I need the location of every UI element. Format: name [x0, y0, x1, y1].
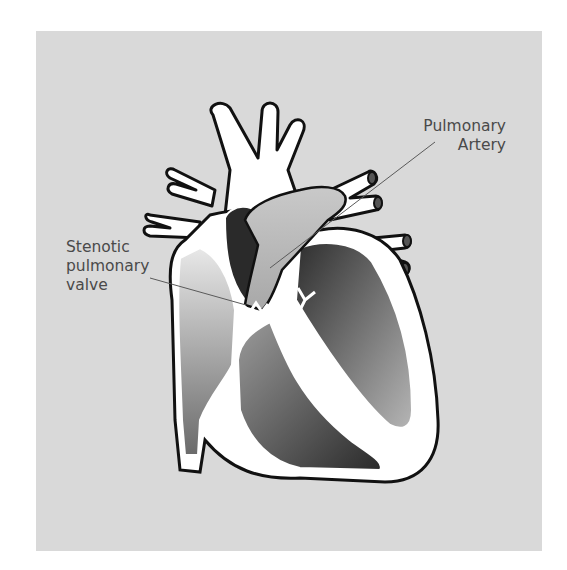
pulmonary-artery-label: Pulmonary Artery: [398, 117, 506, 155]
stenotic-pulmonary-valve-label: Stenotic pulmonary valve: [66, 238, 149, 295]
